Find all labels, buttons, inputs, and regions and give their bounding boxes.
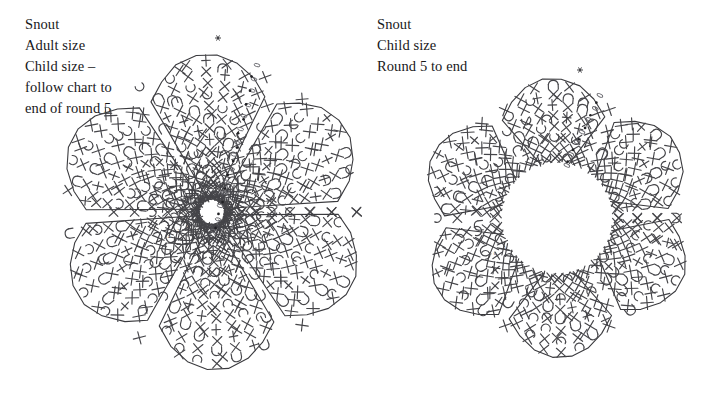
stitch-single-crochet: [219, 352, 227, 362]
stitch-cluster-c: [278, 196, 285, 205]
stitch-cluster-u: [578, 104, 588, 109]
stitch-cluster-c: [310, 270, 318, 279]
stitch-cluster-leg: [104, 293, 108, 296]
stitch-cluster-c: [661, 161, 669, 170]
stitch-cluster-c: [148, 294, 157, 303]
stitch-single-crochet: [272, 263, 273, 276]
stitch-cluster-u: [189, 106, 199, 111]
chart-child-snout: 56: [427, 68, 686, 358]
stitch-cluster-u: [280, 164, 287, 173]
stitch-single-crochet: [590, 170, 603, 171]
stitch-single-crochet: [134, 271, 146, 273]
stitch-cluster-leg: [283, 157, 287, 160]
stitch-cluster-leg: [339, 168, 343, 169]
stitch-cluster-leg: [333, 198, 338, 199]
stitch-single-crochet: [311, 124, 324, 125]
stitch-cluster-u: [139, 143, 147, 151]
stitch-single-crochet: [65, 185, 72, 195]
stitch-single-crochet: [190, 93, 197, 104]
stitch-single-crochet: [263, 270, 264, 283]
petal-lobe: [502, 79, 604, 170]
stitch-single-crochet: [330, 172, 341, 178]
stitch-single-crochet: [255, 158, 267, 159]
stitch-slip: [226, 173, 229, 176]
stitch-cluster-u: [224, 138, 234, 143]
stitch-cluster-u: [571, 326, 581, 331]
stitch-slip: [245, 103, 248, 106]
stitch-single-crochet: [505, 152, 506, 164]
stitch-cluster-u: [646, 199, 651, 209]
stitch-cluster-c: [276, 244, 284, 253]
stitch-cluster-leg: [162, 96, 164, 100]
stitch-single-crochet: [481, 294, 494, 295]
stitch-single-crochet: [465, 288, 478, 289]
stitch-cluster-c: [529, 313, 538, 321]
stitch-single-crochet: [182, 173, 183, 186]
stitch-slip: [242, 118, 245, 121]
stitch-single-crochet: [574, 333, 582, 343]
stitch-cluster-leg: [654, 148, 658, 150]
stitch-cluster-c: [541, 324, 550, 331]
stitch-single-crochet: [126, 278, 139, 280]
stitch-treble-bar: [490, 136, 497, 141]
stitch-slip: [584, 127, 587, 130]
stitch-cluster-c: [135, 83, 144, 91]
stitch-single-crochet: [565, 83, 575, 91]
stitch-cluster-c: [123, 126, 132, 135]
stitch-cluster-u: [658, 148, 665, 157]
stitch-cluster-leg: [461, 193, 466, 194]
stitch-single-crochet: [111, 253, 123, 258]
stitch-cluster-leg: [512, 302, 514, 306]
stitch-single-crochet: [185, 71, 193, 82]
stitch-treble-bar: [85, 197, 86, 206]
stitch-single-crochet: [443, 188, 450, 199]
stitch-cluster-u: [180, 324, 190, 329]
stitch-single-crochet: [218, 284, 225, 294]
stitch-cluster-leg: [179, 306, 181, 310]
stitch-single-crochet: [467, 126, 468, 139]
stitch-single-crochet: [321, 190, 331, 197]
stitch-single-crochet: [243, 164, 255, 165]
stitch-single-crochet: [118, 118, 119, 131]
stitch-cluster-leg: [245, 294, 247, 298]
stitch-cluster-c: [201, 278, 210, 285]
stitch-single-crochet: [181, 304, 192, 310]
stitch-single-crochet: [580, 94, 591, 101]
stitch-cluster-leg: [267, 340, 269, 344]
stitch-single-crochet: [268, 220, 275, 230]
stitch-cluster-leg: [471, 191, 475, 193]
stitch-cluster-leg: [452, 162, 456, 164]
stitch-single-crochet: [597, 179, 610, 180]
stitch-cluster-c: [619, 140, 628, 149]
stitch-cluster-leg: [169, 278, 172, 282]
stitch-cluster-leg: [273, 239, 277, 241]
stitch-treble-bar: [315, 192, 316, 200]
stitch-cluster-leg: [172, 103, 173, 107]
stitch-cluster-u: [441, 204, 446, 214]
stitch-slip: [589, 114, 592, 117]
stitch-cluster-leg: [542, 273, 543, 278]
stitch-cluster-leg: [231, 354, 232, 359]
stitch-single-crochet: [210, 280, 218, 289]
stitch-single-crochet: [232, 106, 243, 112]
stitch-single-crochet: [537, 113, 544, 124]
stitch-single-crochet: [440, 170, 445, 181]
stitch-chain: [579, 129, 586, 134]
stitch-cluster-leg: [181, 100, 182, 104]
stitch-single-crochet: [519, 165, 520, 177]
stitch-cluster-leg: [570, 323, 571, 328]
stitch-cluster-leg: [459, 191, 463, 192]
stitch-single-crochet: [483, 235, 495, 241]
stitch-cluster-leg: [323, 284, 327, 287]
stitch-cluster-c: [286, 208, 292, 217]
stitch-single-crochet: [105, 184, 112, 195]
stitch-single-crochet: [483, 207, 491, 217]
stitch-single-crochet: [184, 242, 197, 243]
stitch-cluster-leg: [344, 276, 348, 278]
stitch-cluster-leg: [650, 273, 654, 275]
stitch-single-crochet: [232, 342, 239, 352]
stitch-single-crochet: [345, 237, 352, 248]
stitch-single-crochet: [587, 321, 593, 332]
stitch-cluster-c: [305, 244, 313, 253]
stitch-cluster-leg: [171, 252, 174, 256]
